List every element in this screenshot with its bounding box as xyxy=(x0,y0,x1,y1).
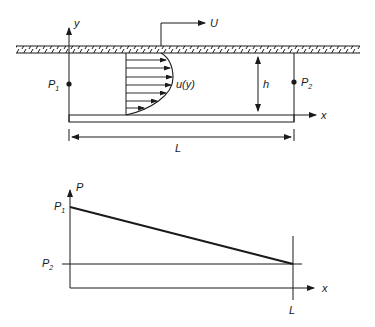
diagram-canvas: U y P1 u(y) h P2 x xyxy=(0,0,375,327)
label-L-bottom: L xyxy=(289,304,295,316)
label-P1-bottom: P1 xyxy=(54,200,65,214)
label-L-top: L xyxy=(175,142,181,154)
label-P2-bottom: P2 xyxy=(42,257,53,271)
top-flow-diagram: U y P1 u(y) h P2 x xyxy=(16,17,360,154)
label-P-axis: P xyxy=(76,181,84,193)
label-y: y xyxy=(73,17,81,29)
label-P2: P2 xyxy=(301,76,312,90)
label-u-of-y: u(y) xyxy=(176,78,195,90)
velocity-profile xyxy=(126,53,173,115)
lower-stationary-plate xyxy=(69,115,294,122)
label-P1: P1 xyxy=(48,78,59,92)
label-U: U xyxy=(210,17,218,29)
pressure-drop-line xyxy=(70,207,293,264)
label-x-top: x xyxy=(320,109,327,121)
label-h: h xyxy=(263,78,269,90)
label-x-bottom: x xyxy=(321,282,328,294)
p2-point-marker xyxy=(291,79,296,84)
pressure-distribution-plot: P x P2 L P1 xyxy=(42,181,328,316)
wall-velocity-arrow xyxy=(161,23,205,46)
upper-moving-wall xyxy=(16,46,360,53)
p1-point-marker xyxy=(66,81,71,86)
